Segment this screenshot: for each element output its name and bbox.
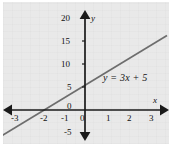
xtick-label-minus3: -3: [11, 114, 19, 123]
xtick-label-2: 2: [127, 114, 132, 123]
xtick-label-1: 1: [106, 114, 111, 123]
graph-figure: 20 15 10 5 0 -5 -3 -2 -1 0 1 2 3 y x y =…: [0, 0, 174, 151]
x-axis-label: x: [153, 96, 157, 105]
xtick-label-minus1: -1: [61, 114, 69, 123]
xtick-label-minus2: -2: [40, 114, 48, 123]
ytick-label-0: 0: [67, 102, 72, 111]
origin-label: 0: [80, 114, 85, 123]
equation-label: y = 3x + 5: [103, 73, 147, 83]
ytick-label-minus5: -5: [64, 128, 72, 137]
plot-area: 20 15 10 5 0 -5 -3 -2 -1 0 1 2 3 y x y =…: [3, 2, 169, 144]
x-axis-arrow-right: [160, 105, 169, 116]
xtick-label-3: 3: [149, 114, 154, 123]
ytick-label-5: 5: [67, 83, 72, 92]
ytick-label-15: 15: [61, 37, 70, 46]
ytick-label-10: 10: [61, 60, 70, 69]
y-axis-label: y: [91, 14, 95, 23]
ytick-label-20: 20: [61, 14, 70, 23]
